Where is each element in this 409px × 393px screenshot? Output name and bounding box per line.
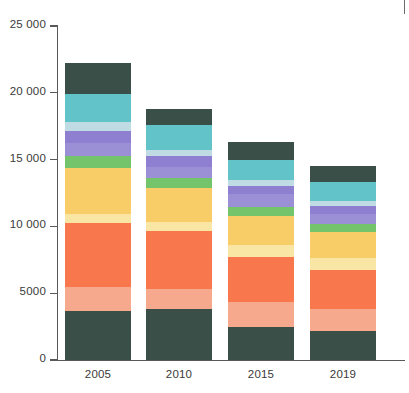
stacked-bar-chart: 0500010 00015 00020 00025 000 2005201020… bbox=[0, 0, 409, 393]
bar-segment-series-8 bbox=[65, 131, 131, 143]
bar-segment-series-5 bbox=[146, 188, 212, 221]
bar-segment-series-4 bbox=[228, 245, 294, 257]
bar-segment-series-5 bbox=[65, 168, 131, 213]
bar-2019 bbox=[310, 166, 376, 360]
bar-segment-series-11 bbox=[65, 63, 131, 93]
bar-segment-series-4 bbox=[65, 214, 131, 223]
x-axis-label-2019: 2019 bbox=[298, 368, 388, 380]
bar-segment-series-1 bbox=[228, 327, 294, 360]
bar-segment-series-6 bbox=[228, 207, 294, 216]
bar-segment-series-1 bbox=[65, 311, 131, 360]
bar-segment-series-6 bbox=[310, 224, 376, 232]
bar-segment-series-2 bbox=[228, 302, 294, 327]
bar-segment-series-9 bbox=[146, 150, 212, 157]
y-axis-tick-label: 10 000 bbox=[10, 218, 46, 230]
bar-segment-series-11 bbox=[146, 109, 212, 125]
bar-segment-series-5 bbox=[310, 232, 376, 257]
y-axis-tick-label: 20 000 bbox=[10, 85, 46, 97]
bar-segment-series-5 bbox=[228, 216, 294, 245]
y-axis-tick bbox=[50, 226, 58, 227]
y-axis-tick-label: 15 000 bbox=[10, 152, 46, 164]
bar-segment-series-3 bbox=[65, 223, 131, 287]
x-axis-label-2005: 2005 bbox=[53, 368, 143, 380]
y-axis-tick-label: 25 000 bbox=[10, 18, 46, 30]
y-axis-line bbox=[57, 26, 58, 361]
bar-segment-series-8 bbox=[228, 186, 294, 194]
y-axis-tick bbox=[50, 25, 58, 26]
bar-segment-series-11 bbox=[228, 142, 294, 160]
bar-segment-series-10 bbox=[228, 160, 294, 180]
x-axis-label-2010: 2010 bbox=[134, 368, 224, 380]
bar-segment-series-1 bbox=[310, 331, 376, 360]
bar-segment-series-8 bbox=[310, 206, 376, 214]
bar-segment-series-10 bbox=[146, 125, 212, 150]
bar-segment-series-2 bbox=[146, 289, 212, 309]
bar-segment-series-2 bbox=[310, 309, 376, 330]
bar-segment-series-7 bbox=[310, 214, 376, 224]
bar-2010 bbox=[146, 109, 212, 360]
bar-segment-series-7 bbox=[146, 167, 212, 178]
bar-segment-series-8 bbox=[146, 156, 212, 167]
bar-segment-series-2 bbox=[65, 287, 131, 311]
y-axis-tick-label: 5000 bbox=[20, 285, 46, 297]
plot-area: 0500010 00015 00020 00025 000 2005201020… bbox=[0, 0, 409, 393]
bar-segment-series-7 bbox=[228, 194, 294, 207]
bar-segment-series-3 bbox=[228, 257, 294, 302]
x-axis-label-2015: 2015 bbox=[216, 368, 306, 380]
bar-segment-series-10 bbox=[310, 182, 376, 201]
y-axis-tick bbox=[50, 293, 58, 294]
bar-segment-series-10 bbox=[65, 94, 131, 123]
bar-segment-series-9 bbox=[65, 122, 131, 131]
bar-segment-series-11 bbox=[310, 166, 376, 181]
bar-2005 bbox=[65, 63, 131, 360]
bar-2015 bbox=[228, 142, 294, 360]
y-axis-tick bbox=[50, 159, 58, 160]
y-axis-tick bbox=[50, 359, 58, 360]
y-axis-tick-label: 0 bbox=[39, 352, 46, 364]
bar-segment-series-3 bbox=[146, 231, 212, 289]
bar-segment-series-4 bbox=[146, 222, 212, 231]
bar-segment-series-3 bbox=[310, 270, 376, 309]
x-axis-line bbox=[57, 360, 405, 361]
bar-segment-series-7 bbox=[65, 143, 131, 156]
bar-segment-series-6 bbox=[65, 156, 131, 168]
bar-segment-series-4 bbox=[310, 258, 376, 270]
bar-segment-series-1 bbox=[146, 309, 212, 360]
bar-segment-series-6 bbox=[146, 178, 212, 188]
y-axis-tick bbox=[50, 92, 58, 93]
